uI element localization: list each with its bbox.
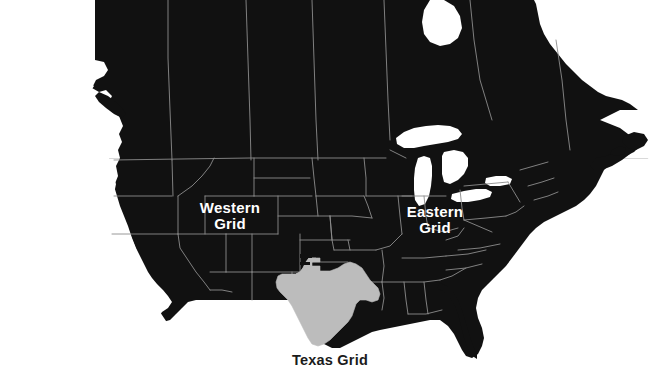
map-figure: Western Grid Eastern Grid Texas Grid (0, 0, 651, 390)
panhandle-notch-2 (300, 262, 310, 265)
gulf-mexico-cutout (0, 300, 220, 390)
north-america-map (0, 0, 651, 390)
panhandle-notch-1 (300, 254, 312, 258)
